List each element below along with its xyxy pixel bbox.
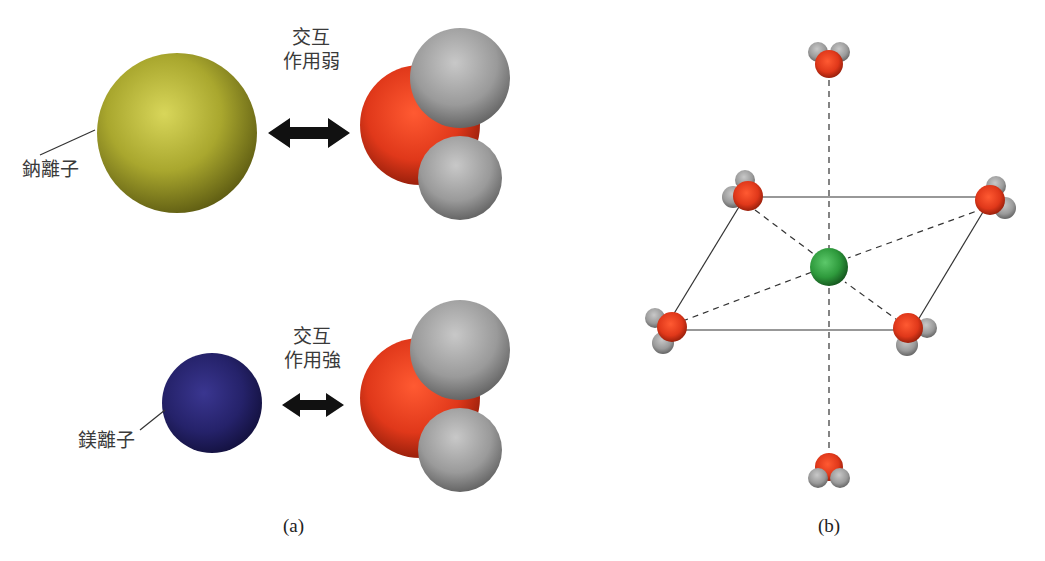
water-molecule-lower-right <box>893 313 937 356</box>
sodium-leader-line <box>40 130 95 155</box>
interaction-strong-label: 交互 作用強 <box>277 325 347 373</box>
caption-b: (b) <box>818 515 840 537</box>
magnesium-ion-label: 鎂離子 <box>78 429 135 453</box>
water-molecule-axial-top <box>808 42 850 78</box>
double-arrow-icon <box>282 393 344 417</box>
water-molecule-top <box>360 28 510 220</box>
water-molecule-axial-bottom <box>808 453 850 488</box>
double-arrow-icon <box>268 118 350 148</box>
interaction-line1: 交互 <box>276 26 346 50</box>
magnesium-ion <box>162 353 262 453</box>
water-molecule-bottom <box>360 300 510 492</box>
magnesium-leader-line <box>140 410 165 430</box>
interaction-line1: 交互 <box>277 325 347 349</box>
diagram-canvas <box>0 0 1045 561</box>
interaction-line2: 作用弱 <box>276 50 346 74</box>
interaction-weak-label: 交互 作用弱 <box>276 26 346 74</box>
interaction-line2: 作用強 <box>277 349 347 373</box>
caption-a: (a) <box>283 515 304 537</box>
sodium-ion-label: 鈉離子 <box>22 158 79 182</box>
water-molecule-lower-left <box>645 308 687 354</box>
central-ion <box>810 248 848 286</box>
water-molecule-upper-left <box>722 170 763 211</box>
sodium-ion <box>97 53 257 213</box>
water-molecule-upper-right <box>975 176 1016 219</box>
